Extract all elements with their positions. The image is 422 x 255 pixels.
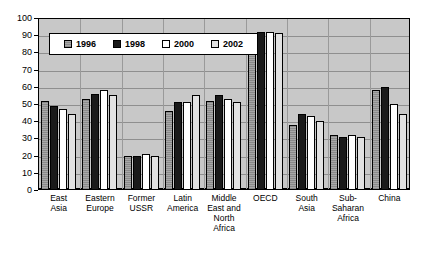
bar[interactable] [257, 32, 265, 190]
bar[interactable] [165, 111, 173, 190]
x-axis-category-label: South Asia [286, 193, 327, 213]
x-axis-category-label: Middle East and North Africa [203, 193, 244, 233]
y-axis: 1009080706050403020100 [0, 0, 38, 191]
bar[interactable] [339, 137, 347, 190]
y-axis-tick-label: 50 [22, 100, 32, 109]
bar[interactable] [100, 90, 108, 190]
legend-item-2002[interactable]: 2002 [211, 40, 243, 49]
bar[interactable] [91, 94, 99, 190]
y-axis-tick-label: 10 [22, 168, 32, 177]
chart-legend: 1996199820002002 [49, 33, 258, 55]
x-axis-category-label: China [369, 193, 410, 203]
x-axis-category-label: Former USSR [121, 193, 162, 213]
legend-item-1996[interactable]: 1996 [64, 40, 96, 49]
legend-swatch-icon [162, 40, 170, 48]
bar[interactable] [68, 114, 76, 190]
x-axis-category-label: Latin America [162, 193, 203, 213]
bar[interactable] [248, 33, 256, 190]
legend-label: 2000 [174, 40, 194, 49]
bar[interactable] [142, 154, 150, 190]
x-axis-category-label: East Asia [38, 193, 79, 213]
bar[interactable] [330, 135, 338, 190]
bar[interactable] [298, 114, 306, 190]
x-axis-category-label: Eastern Europe [79, 193, 120, 213]
bar-chart: 1009080706050403020100 1996199820002002 … [0, 0, 422, 255]
bar[interactable] [372, 90, 380, 190]
bar[interactable] [82, 99, 90, 190]
bar[interactable] [266, 32, 274, 190]
bar[interactable] [41, 101, 49, 190]
legend-item-1998[interactable]: 1998 [113, 40, 145, 49]
bar[interactable] [307, 116, 315, 190]
legend-label: 2002 [223, 40, 243, 49]
bar[interactable] [183, 102, 191, 190]
x-axis-labels: East AsiaEastern EuropeFormer USSRLatin … [38, 193, 410, 253]
bar[interactable] [289, 125, 297, 190]
y-axis-tick-mark [34, 190, 38, 191]
y-axis-tick-label: 90 [22, 31, 32, 40]
bar[interactable] [59, 109, 67, 190]
bar-group [369, 18, 410, 190]
y-axis-tick-label: 70 [22, 65, 32, 74]
bar[interactable] [233, 102, 241, 190]
bar[interactable] [215, 95, 223, 190]
legend-label: 1998 [125, 40, 145, 49]
bar[interactable] [316, 121, 324, 190]
y-axis-tick-label: 0 [27, 186, 32, 195]
bar-group [286, 18, 327, 190]
legend-label: 1996 [76, 40, 96, 49]
bar[interactable] [151, 156, 159, 190]
bar[interactable] [124, 156, 132, 190]
bar[interactable] [174, 102, 182, 190]
legend-swatch-icon [211, 40, 219, 48]
bar[interactable] [109, 95, 117, 190]
bar[interactable] [399, 114, 407, 190]
bar[interactable] [206, 101, 214, 190]
y-axis-tick-label: 80 [22, 48, 32, 57]
y-axis-tick-label: 20 [22, 151, 32, 160]
bar[interactable] [348, 135, 356, 190]
y-axis-tick-label: 60 [22, 82, 32, 91]
bar[interactable] [50, 106, 58, 190]
bar[interactable] [390, 104, 398, 190]
bar[interactable] [381, 87, 389, 190]
y-axis-tick-label: 40 [22, 117, 32, 126]
bar-group [327, 18, 368, 190]
bar[interactable] [224, 99, 232, 190]
bar[interactable] [133, 156, 141, 190]
legend-swatch-icon [64, 40, 72, 48]
bar[interactable] [192, 95, 200, 190]
y-axis-tick-label: 30 [22, 134, 32, 143]
x-axis-category-label: Sub- Saharan Africa [327, 193, 368, 223]
bar[interactable] [357, 137, 365, 190]
x-axis-category-label: OECD [245, 193, 286, 203]
legend-swatch-icon [113, 40, 121, 48]
y-axis-tick-label: 100 [17, 14, 32, 23]
legend-item-2000[interactable]: 2000 [162, 40, 194, 49]
bar[interactable] [275, 33, 283, 190]
